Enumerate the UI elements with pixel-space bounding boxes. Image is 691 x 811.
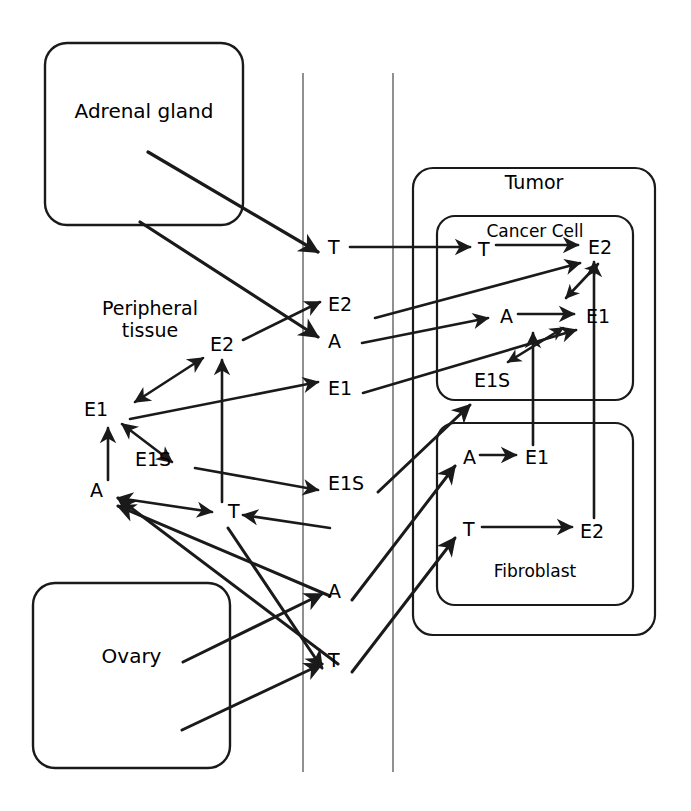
tumor-label: Tumor <box>413 172 655 194</box>
mol-blood-A-low: A <box>328 580 341 602</box>
mol-cc-E1S: E1S <box>474 369 510 391</box>
mol-fb-T: T <box>463 518 475 540</box>
arrow-blood-A-to-cc-A <box>362 318 488 343</box>
arrow-periph-E1S-to-blood-E1S <box>195 468 318 490</box>
mol-blood-T-top: T <box>328 236 340 258</box>
arrow-ovary-to-blood-T <box>182 664 322 730</box>
mol-fb-E2: E2 <box>580 520 604 542</box>
mol-blood-E1S: E1S <box>328 472 364 494</box>
mol-periph-T: T <box>228 500 240 522</box>
arrow-periph-to-blood-E2 <box>243 302 320 340</box>
mol-periph-A: A <box>90 479 103 501</box>
arrow-cc-E1S-E1 <box>508 328 563 362</box>
mol-cc-T: T <box>478 238 490 260</box>
arrow-blood-to-periph-T <box>243 515 330 528</box>
mol-periph-E2: E2 <box>210 333 234 355</box>
mol-cc-E2: E2 <box>588 236 612 258</box>
mol-periph-E1S: E1S <box>135 448 171 470</box>
mol-fb-A: A <box>463 446 476 468</box>
arrow-blood-E1S-to-cc-E1S <box>378 405 470 492</box>
mol-blood-E2: E2 <box>328 293 352 315</box>
arrow-periph-T-to-blood-T-low <box>228 528 322 668</box>
ovary-box[interactable] <box>33 583 230 768</box>
peripheral-tissue-label: Peripheral tissue <box>75 298 225 342</box>
mol-cc-A: A <box>500 305 513 327</box>
ovary-label: Ovary <box>33 645 230 668</box>
mol-blood-E1: E1 <box>328 377 352 399</box>
mol-periph-E1: E1 <box>84 398 108 420</box>
fibroblast-label: Fibroblast <box>437 562 633 582</box>
mol-cc-E1: E1 <box>586 305 610 327</box>
arrow-blood-E2-to-cc-E2 <box>375 263 580 318</box>
arrow-periph-E1-E2 <box>135 358 203 402</box>
diagram-canvas: Adrenal gland Ovary Peripheral tissue Tu… <box>0 0 691 811</box>
adrenal-gland-label: Adrenal gland <box>45 100 243 123</box>
arrow-adrenal-to-blood-T <box>148 152 318 252</box>
adrenal-gland-box[interactable] <box>45 43 243 225</box>
mol-blood-T-low: T <box>328 649 340 671</box>
arrow-blood-T-to-fb-T <box>352 538 455 672</box>
mol-fb-E1: E1 <box>525 446 549 468</box>
mol-blood-A-mid: A <box>328 330 341 352</box>
